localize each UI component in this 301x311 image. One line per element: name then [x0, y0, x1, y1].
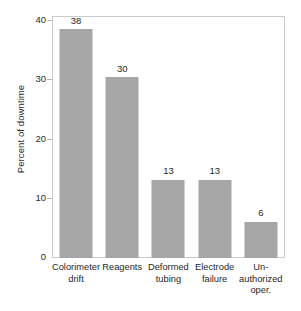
x-label-4-line-0: Un- [235, 262, 287, 274]
bar-group-0: 38 [53, 17, 99, 258]
x-label-0-line-0: Colorimeter [51, 262, 101, 274]
x-label-3: Electrode failure [190, 262, 240, 285]
bar-3 [198, 180, 231, 258]
bars-layer: 38 30 13 13 6 [53, 17, 284, 258]
x-label-0-line-1: drift [51, 274, 101, 286]
bar-value-4: 6 [258, 208, 263, 218]
x-label-2-line-0: Deformed [143, 262, 193, 274]
bar-4 [244, 222, 277, 258]
x-label-1-line-0: Reagents [97, 262, 147, 274]
bar-value-2: 13 [163, 166, 174, 176]
bar-group-4: 6 [238, 17, 284, 258]
bar-value-3: 13 [209, 166, 220, 176]
x-label-2-line-1: tubing [143, 274, 193, 286]
x-label-0: Colorimeter drift [51, 262, 101, 285]
x-label-2: Deformed tubing [143, 262, 193, 285]
x-label-4: Un- authorized oper. [235, 262, 287, 297]
bar-group-3: 13 [192, 17, 238, 258]
x-label-4-line-1: authorized [235, 274, 287, 286]
x-label-3-line-0: Electrode [190, 262, 240, 274]
x-label-3-line-1: failure [190, 274, 240, 286]
y-tick-label-0: 0 [41, 252, 46, 262]
bar-0 [60, 29, 93, 258]
y-tick-label-20: 20 [35, 134, 46, 144]
x-label-1: Reagents [97, 262, 147, 274]
bar-2 [152, 180, 185, 258]
x-label-4-line-2: oper. [235, 285, 287, 297]
y-axis-tick-labels: 40 30 20 10 0 [24, 0, 46, 311]
bar-value-1: 30 [117, 64, 128, 74]
bar-group-2: 13 [145, 17, 191, 258]
y-tick-label-30: 30 [35, 74, 46, 84]
x-axis-labels: Colorimeter drift Reagents Deformed tubi… [53, 262, 284, 308]
y-tick-label-40: 40 [35, 15, 46, 25]
bar-group-1: 30 [99, 17, 145, 258]
bar-value-0: 38 [71, 16, 82, 26]
bar-chart: Percent of downtime 40 30 20 10 0 38 30 … [0, 0, 301, 311]
y-tick-label-10: 10 [35, 193, 46, 203]
bar-1 [106, 77, 139, 258]
